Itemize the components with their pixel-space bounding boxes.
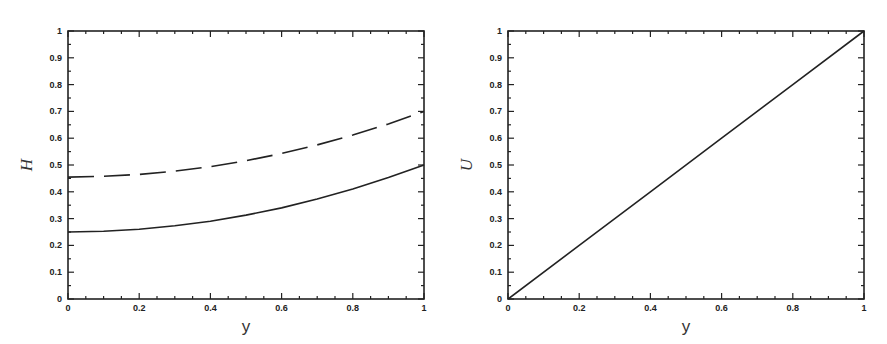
x-tick-label: 0.8 bbox=[347, 303, 360, 313]
y-tick-label: 0.7 bbox=[489, 106, 502, 116]
chart-h-vs-y: 00.20.40.60.8100.10.20.30.40.50.60.70.80… bbox=[0, 0, 444, 344]
y-tick-label: 0.1 bbox=[49, 267, 62, 277]
y-tick-label: 0.9 bbox=[49, 53, 62, 63]
series-solid-line bbox=[508, 31, 864, 299]
y-tick-label: 0.5 bbox=[489, 160, 502, 170]
x-tick-label: 1 bbox=[861, 303, 866, 313]
x-tick-label: 0 bbox=[65, 303, 70, 313]
y-tick-label: 0.8 bbox=[49, 80, 62, 90]
x-axis-title: y bbox=[682, 317, 691, 336]
y-axis-title: U bbox=[457, 157, 476, 171]
y-tick-label: 0.9 bbox=[489, 53, 502, 63]
y-tick-label: 0.3 bbox=[49, 214, 62, 224]
y-axis-title: H bbox=[17, 157, 36, 172]
series-dashed-line bbox=[68, 111, 424, 177]
x-tick-label: 0.4 bbox=[204, 303, 217, 313]
plot-frame bbox=[68, 31, 424, 299]
y-tick-label: 0.1 bbox=[489, 267, 502, 277]
y-tick-label: 0.2 bbox=[489, 240, 502, 250]
y-tick-label: 0.4 bbox=[489, 187, 502, 197]
x-tick-label: 0.6 bbox=[275, 303, 288, 313]
x-tick-label: 0.8 bbox=[787, 303, 800, 313]
x-tick-label: 0.2 bbox=[573, 303, 586, 313]
x-tick-label: 0.2 bbox=[133, 303, 146, 313]
chart-u-vs-y: 00.20.40.60.8100.10.20.30.40.50.60.70.80… bbox=[444, 0, 887, 344]
y-tick-label: 0.3 bbox=[489, 214, 502, 224]
y-tick-label: 0 bbox=[497, 294, 502, 304]
y-tick-label: 1 bbox=[497, 26, 502, 36]
y-tick-label: 0.7 bbox=[49, 106, 62, 116]
y-tick-label: 0.4 bbox=[49, 187, 62, 197]
x-tick-label: 0 bbox=[505, 303, 510, 313]
chart-h-canvas: 00.20.40.60.8100.10.20.30.40.50.60.70.80… bbox=[0, 0, 444, 344]
y-tick-label: 0.5 bbox=[49, 160, 62, 170]
y-tick-label: 1 bbox=[57, 26, 62, 36]
y-tick-label: 0 bbox=[57, 294, 62, 304]
x-tick-label: 1 bbox=[421, 303, 426, 313]
x-tick-label: 0.6 bbox=[715, 303, 728, 313]
y-tick-label: 0.6 bbox=[49, 133, 62, 143]
chart-u-canvas: 00.20.40.60.8100.10.20.30.40.50.60.70.80… bbox=[444, 0, 887, 344]
x-tick-label: 0.4 bbox=[644, 303, 657, 313]
y-tick-label: 0.6 bbox=[489, 133, 502, 143]
y-tick-label: 0.8 bbox=[489, 80, 502, 90]
y-tick-label: 0.2 bbox=[49, 240, 62, 250]
x-axis-title: y bbox=[242, 317, 251, 336]
